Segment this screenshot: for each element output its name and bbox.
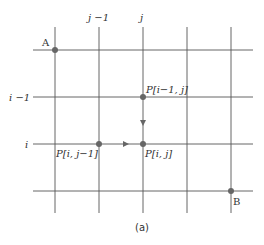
label-b: B [233,196,240,207]
caption: (a) [135,222,149,233]
label-p-i-j: P[i, j] [144,148,172,159]
label-i: i [25,139,28,150]
arrow-down-icon [140,120,146,126]
label-i-minus-1: i −1 [9,92,30,103]
label-p-im1-j: P[i−1, j] [145,84,188,95]
point-b [228,188,234,194]
point-a [52,47,58,53]
point-p-i-j [140,141,146,147]
grid-diagram: j −1 j i −1 i A B P[i−1, j] P[i, j−1] P[… [0,0,264,245]
point-p-i-jm1 [96,141,102,147]
label-j-minus-1: j −1 [86,12,109,23]
label-j: j [138,12,143,23]
label-a: A [41,37,50,48]
arrow-right-icon [123,141,129,147]
label-p-i-jm1: P[i, j−1] [55,148,98,159]
